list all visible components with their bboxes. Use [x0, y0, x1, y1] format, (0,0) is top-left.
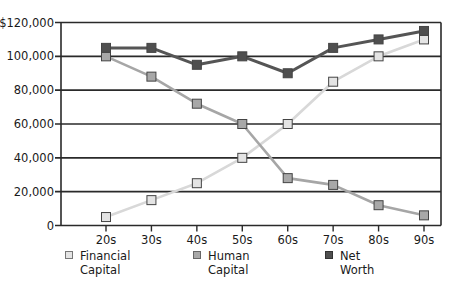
data-point-marker-icon: [374, 52, 383, 61]
financial-capital-swatch-icon: [65, 251, 73, 259]
data-point-marker-icon: [102, 213, 111, 222]
y-tick-label: 80,000: [14, 83, 54, 97]
y-tick-label: $120,000: [0, 16, 54, 30]
data-point-marker-icon: [283, 174, 292, 183]
legend-label-line2: Capital: [208, 263, 248, 277]
series-human-capital: [102, 52, 429, 220]
legend-label-line1: Financial: [80, 249, 130, 263]
data-point-marker-icon: [420, 211, 429, 220]
data-point-marker-icon: [147, 72, 156, 81]
series-financial-capital: [102, 35, 429, 222]
data-point-marker-icon: [283, 69, 292, 78]
y-tick-label: 0: [47, 219, 54, 233]
data-point-marker-icon: [238, 153, 247, 162]
data-point-marker-icon: [238, 52, 247, 61]
y-tick-label: 20,000: [14, 185, 54, 199]
x-tick-label: 90s: [414, 233, 435, 247]
data-point-marker-icon: [374, 35, 383, 44]
data-point-marker-icon: [329, 43, 338, 52]
data-point-marker-icon: [420, 26, 429, 35]
legend-label-line1: Net: [340, 249, 360, 263]
y-axis-tick-labels: 020,00040,00060,00080,000100,000$120,000: [0, 16, 54, 233]
data-point-marker-icon: [283, 120, 292, 129]
legend-label-line2: Worth: [340, 263, 374, 277]
legend-label-line2: Capital: [80, 263, 120, 277]
data-point-marker-icon: [192, 179, 201, 188]
legend-label-line1: Human: [208, 249, 249, 263]
human-capital-swatch-icon: [193, 251, 201, 259]
x-tick-label: 80s: [368, 233, 389, 247]
line-chart: 020,00040,00060,00080,000100,000$120,000…: [0, 0, 457, 290]
data-point-marker-icon: [238, 120, 247, 129]
x-tick-label: 50s: [232, 233, 253, 247]
data-point-marker-icon: [147, 196, 156, 205]
data-point-marker-icon: [329, 180, 338, 189]
net-worth-swatch-icon: [325, 251, 333, 259]
data-point-marker-icon: [102, 52, 111, 61]
data-point-marker-icon: [192, 99, 201, 108]
data-point-marker-icon: [192, 60, 201, 69]
y-tick-label: 40,000: [14, 151, 54, 165]
x-tick-label: 30s: [141, 233, 162, 247]
x-tick-label: 70s: [323, 233, 344, 247]
x-tick-label: 60s: [277, 233, 298, 247]
data-point-marker-icon: [374, 201, 383, 210]
data-point-marker-icon: [420, 35, 429, 44]
x-tick-label: 20s: [96, 233, 117, 247]
data-point-marker-icon: [102, 43, 111, 52]
y-tick-label: 60,000: [14, 117, 54, 131]
x-tick-label: 40s: [187, 233, 208, 247]
x-axis-tick-labels: 20s30s40s50s60s70s80s90s: [96, 233, 435, 247]
data-point-marker-icon: [147, 43, 156, 52]
data-point-marker-icon: [329, 77, 338, 86]
y-tick-label: 100,000: [6, 49, 54, 63]
